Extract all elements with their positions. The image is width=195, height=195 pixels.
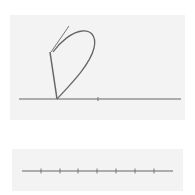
straight-segment	[50, 52, 57, 99]
number-line-figure	[22, 169, 173, 174]
diagram-drawing	[0, 0, 195, 195]
top-figure	[19, 26, 181, 101]
diagram-canvas	[0, 0, 195, 195]
teardrop-loop	[53, 31, 95, 99]
